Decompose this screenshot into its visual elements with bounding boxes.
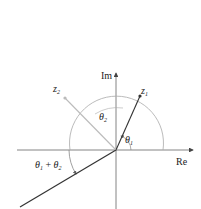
- z2-point: [63, 96, 66, 99]
- complex-plane-diagram: Im Re z1 z2 θ1 θ2 θ1 + θ2: [0, 0, 201, 209]
- theta1-label: θ1: [125, 134, 133, 146]
- z1-label: z1: [140, 85, 148, 97]
- real-axis-label: Re: [176, 156, 188, 167]
- z2-label: z2: [52, 83, 60, 95]
- theta2-label: θ2: [99, 111, 107, 123]
- sum-angle-arc: [69, 150, 76, 174]
- sum-angle-label: θ1 + θ2: [35, 159, 61, 171]
- imaginary-axis-label: Im: [101, 70, 112, 81]
- z2-vector: [65, 98, 116, 150]
- angle-arc: [70, 96, 164, 150]
